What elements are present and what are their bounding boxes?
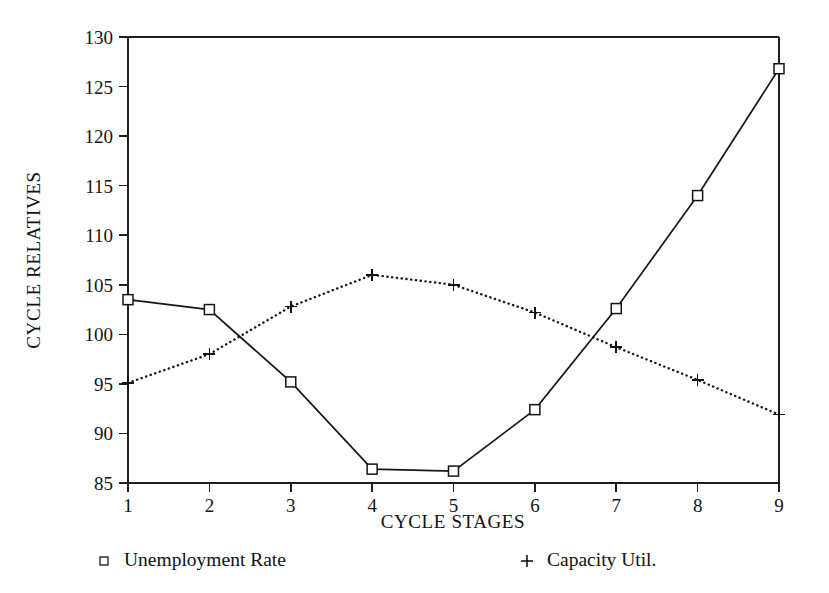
data-point-marker	[123, 295, 133, 305]
y-axis-ticks	[119, 37, 128, 483]
x-tick-label: 1	[123, 495, 133, 516]
y-tick-label: 115	[85, 176, 113, 197]
y-tick-label: 105	[85, 275, 114, 296]
x-tick-label: 2	[205, 495, 215, 516]
series-line-1	[128, 69, 779, 471]
y-tick-label: 120	[85, 126, 114, 147]
data-point-marker	[692, 374, 704, 386]
data-point-marker	[122, 377, 134, 389]
series-line-2	[128, 275, 779, 415]
x-tick-label: 8	[693, 495, 703, 516]
cycle-relatives-line-chart: 859095100105110115120125130 123456789 CY…	[0, 0, 829, 593]
x-tick-label: 6	[530, 495, 540, 516]
series-markers-group	[122, 64, 785, 476]
y-tick-label: 95	[94, 374, 113, 395]
x-tick-label: 3	[286, 495, 296, 516]
y-tick-label: 100	[85, 324, 114, 345]
y-tick-label: 110	[85, 225, 113, 246]
data-point-marker	[773, 409, 785, 421]
data-point-marker	[448, 279, 460, 291]
x-axis-ticks	[128, 483, 779, 492]
y-tick-label: 90	[94, 423, 113, 444]
y-axis-title: CYCLE RELATIVES	[23, 171, 44, 348]
legend-label: Capacity Util.	[547, 549, 656, 570]
data-point-marker	[366, 269, 378, 281]
square-marker-icon	[100, 557, 108, 565]
plus-marker-icon	[521, 555, 533, 567]
data-point-marker	[204, 305, 214, 315]
legend-label: Unemployment Rate	[124, 549, 286, 570]
chart-figure: 859095100105110115120125130 123456789 CY…	[0, 0, 829, 593]
data-point-marker	[530, 405, 540, 415]
x-axis-title: CYCLE STAGES	[381, 511, 526, 532]
x-tick-label: 4	[367, 495, 377, 516]
data-point-marker	[367, 464, 377, 474]
data-point-marker	[285, 301, 297, 313]
data-point-marker	[529, 307, 541, 319]
x-tick-label: 7	[612, 495, 622, 516]
chart-legend: Unemployment RateCapacity Util.	[100, 549, 656, 570]
legend-item-1[interactable]: Unemployment Rate	[100, 549, 286, 570]
y-axis-tick-labels: 859095100105110115120125130	[85, 27, 114, 494]
y-tick-label: 125	[85, 77, 114, 98]
y-tick-label: 130	[85, 27, 114, 48]
y-tick-label: 85	[94, 473, 113, 494]
data-point-marker	[449, 466, 459, 476]
data-point-marker	[286, 377, 296, 387]
data-point-marker	[610, 341, 622, 353]
x-tick-label: 9	[774, 495, 784, 516]
data-point-marker	[203, 348, 215, 360]
data-point-marker	[774, 64, 784, 74]
data-point-marker	[611, 304, 621, 314]
data-point-marker	[693, 191, 703, 201]
plot-frame	[128, 37, 779, 483]
legend-item-2[interactable]: Capacity Util.	[521, 549, 656, 570]
series-lines-group	[128, 69, 779, 471]
